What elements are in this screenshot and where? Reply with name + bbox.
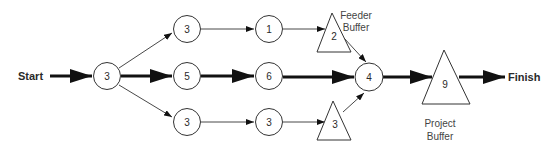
feeder-buffer-caption: Feeder Buffer <box>340 10 372 33</box>
svg-text:3: 3 <box>266 117 272 128</box>
svg-text:6: 6 <box>266 71 272 82</box>
start-label: Start <box>18 70 43 82</box>
feeder-buffer-bottom-triangle: 3 <box>317 101 351 140</box>
svg-text:3: 3 <box>104 71 110 82</box>
node-top-1: 3 <box>174 16 201 43</box>
svg-text:Buffer: Buffer <box>427 131 454 142</box>
svg-text:Buffer: Buffer <box>343 22 370 33</box>
node-mid-1: 5 <box>174 63 201 90</box>
edge-feeder-bot-to-merge <box>343 93 364 112</box>
svg-text:3: 3 <box>184 117 190 128</box>
svg-text:5: 5 <box>184 71 190 82</box>
node-merge: 4 <box>355 63 383 91</box>
node-mid-2: 6 <box>256 63 283 90</box>
svg-text:3: 3 <box>332 119 338 130</box>
node-bot-1: 3 <box>174 109 201 136</box>
svg-text:2: 2 <box>331 31 337 42</box>
svg-text:Project: Project <box>424 118 455 129</box>
critical-chain-diagram: Start Finish 3 3 1 5 6 3 3 4 2 3 <box>0 0 551 148</box>
project-buffer-caption: Project Buffer <box>424 118 455 142</box>
node-bot-2: 3 <box>256 109 283 136</box>
svg-text:3: 3 <box>184 24 190 35</box>
svg-text:1: 1 <box>266 24 272 35</box>
finish-label: Finish <box>508 71 541 83</box>
svg-text:4: 4 <box>366 72 372 83</box>
edge-node-to-bot1 <box>119 85 172 117</box>
node-start-task: 3 <box>94 63 121 90</box>
node-top-2: 1 <box>256 16 283 43</box>
svg-text:Feeder: Feeder <box>340 10 372 21</box>
edge-node-to-top1 <box>119 33 172 68</box>
svg-text:9: 9 <box>442 79 448 90</box>
